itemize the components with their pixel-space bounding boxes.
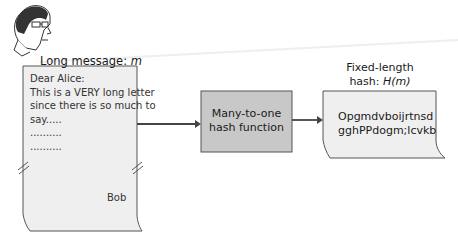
hash-line2: gghPPdogm;lcvkb [338, 124, 436, 138]
hash-value: Opgmdvboijrtnsd gghPPdogm;lcvkb [338, 110, 436, 138]
letter-line: .......... [30, 126, 156, 140]
hash-function-line1: Many-to-one [201, 107, 292, 121]
letter-line: say..... [30, 113, 156, 127]
person-icon [14, 6, 51, 56]
arrow-to-hash-output [292, 116, 323, 124]
letter-signature: Bob [107, 191, 126, 205]
hash-function-label: Many-to-one hash function [201, 107, 292, 135]
output-label-line2: hash: H(m) [330, 75, 430, 89]
letter-body: Dear Alice: This is a VERY long letter s… [30, 72, 156, 153]
letter-line: .......... [30, 140, 156, 154]
output-label: Fixed-length hash: H(m) [330, 61, 430, 89]
long-message-label: Long message: m [40, 54, 142, 68]
hash-line1: Opgmdvboijrtnsd [338, 110, 436, 124]
output-label-line1: Fixed-length [330, 61, 430, 75]
letter-line: This is a VERY long letter [30, 86, 156, 100]
hash-function-line2: hash function [201, 121, 292, 135]
letter-line: Dear Alice: [30, 72, 156, 86]
letter-line: since there is so much to [30, 99, 156, 113]
